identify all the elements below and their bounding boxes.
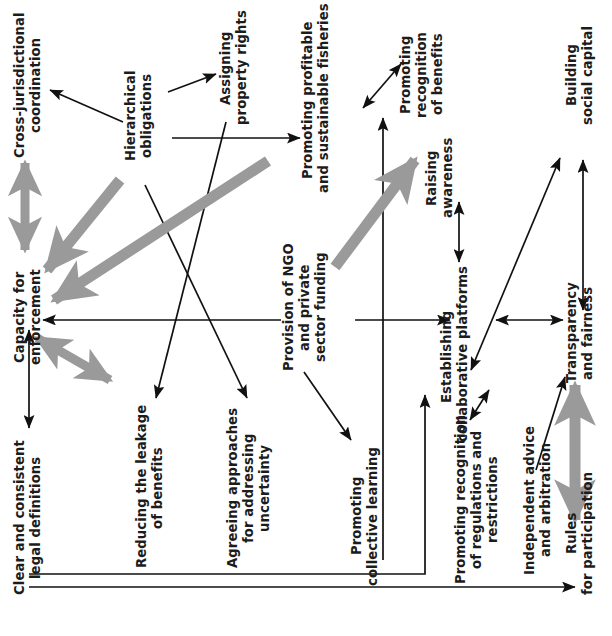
node-promoting-collective-learning[interactable]: Promoting collective learning	[349, 442, 381, 590]
node-cross-jurisdictional-coordination[interactable]: Cross-jurisdictional coordination	[12, 10, 44, 160]
edge-hierarchical-to-agreeing-approaches	[145, 185, 247, 398]
edge-provision-funding-to-promoting-collective-learning	[304, 372, 351, 440]
edge-hierarchical-to-cross-jurisdictional	[50, 90, 123, 122]
edge-establishing-platforms-to-building-social-capital	[471, 158, 560, 370]
edge-assigning-to-reducing-leakage	[156, 122, 226, 398]
node-agreeing-approaches-for-addressing-uncertainty[interactable]: Agreeing approaches for addressing uncer…	[225, 408, 273, 568]
node-reducing-the-leakage-of-benefits[interactable]: Reducing the leakage of benefits	[134, 408, 166, 568]
node-transparency-and-fairness[interactable]: Transparency and fairness	[564, 274, 596, 392]
edge-hierarchical-to-capacity-thick	[47, 180, 120, 270]
node-assigning-property-rights[interactable]: Assigning property rights	[218, 8, 250, 128]
node-promoting-recognition-of-benefits[interactable]: Promoting recognition of benefits	[398, 12, 446, 137]
node-promoting-profitable-and-sustainable-fisheries[interactable]: Promoting profitable and sustainable fis…	[300, 8, 332, 193]
node-capacity-for-enforcement[interactable]: Capacity for enforcement	[12, 262, 44, 372]
node-independent-advice-and-arbitration[interactable]: Independent advice and arbitration	[522, 420, 554, 580]
node-rules-for-participation[interactable]: Rules for participation	[564, 468, 596, 598]
diagram-canvas: Cross-jurisdictional coordination Capaci…	[0, 0, 612, 636]
node-provision-of-ngo-and-private-sector-funding[interactable]: Provision of NGO and private sector fund…	[281, 240, 329, 375]
edge-provision-funding-to-promoting-profitable-thick-2	[335, 160, 415, 267]
node-promoting-recognition-of-regulations-and-restrictions[interactable]: Promoting recognition of regulations and…	[453, 416, 501, 584]
edge-capacity-to-reducing-leakage-thick	[37, 338, 110, 380]
node-raising-awareness[interactable]: Raising awareness	[424, 128, 456, 228]
node-building-social-capital[interactable]: Building social capital	[564, 14, 596, 136]
node-hierarchical-obligations[interactable]: Hierarchical obligations	[123, 60, 155, 172]
edge-promoting-profitable-to-recognition-benefits	[363, 64, 401, 108]
edge-hierarchical-to-assigning-property-rights	[168, 74, 216, 92]
node-clear-and-consistent-legal-definitions[interactable]: Clear and consistent legal definitions	[12, 440, 44, 595]
